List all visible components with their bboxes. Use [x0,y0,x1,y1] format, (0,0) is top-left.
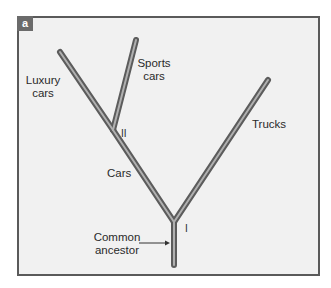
label-trucks: Trucks [252,118,286,131]
node-label-II: II [121,127,127,140]
label-luxury-cars: Luxury cars [20,74,66,100]
label-cars: Cars [107,167,131,180]
label-sports-cars: Sports cars [134,57,174,83]
phylogeny-tree [0,0,331,288]
label-common-ancestor: Common ancestor [92,231,142,257]
node-label-I: I [185,222,188,235]
